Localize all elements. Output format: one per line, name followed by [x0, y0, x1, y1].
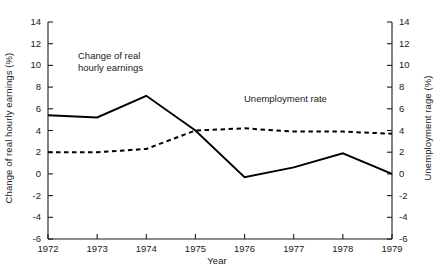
- series-line-unemployment: [48, 128, 392, 152]
- plot-area: [0, 0, 434, 273]
- y-axis-ticks-right: [387, 22, 392, 239]
- chart-container: Change of real hourly earnings (%) Unemp…: [0, 0, 434, 273]
- annotation-unemployment-label: Unemployment rate: [244, 93, 327, 105]
- series-line-earnings: [48, 96, 392, 177]
- x-axis-ticks: [48, 234, 392, 239]
- annotation-earnings-label: Change of real hourly earnings: [78, 50, 143, 74]
- y-axis-ticks-left: [48, 22, 53, 239]
